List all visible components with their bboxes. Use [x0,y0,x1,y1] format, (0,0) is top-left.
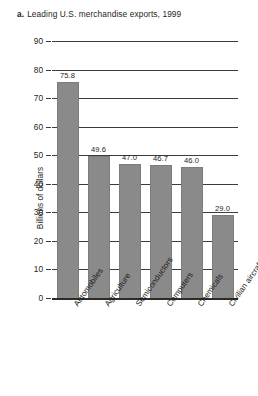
y-axis-tick-label: 40 [34,179,43,189]
bar-value-label: 75.8 [60,71,75,80]
bar[interactable] [150,165,172,298]
y-axis-tick-label: 30 [34,207,43,217]
y-axis-tick [46,70,51,71]
x-axis-line [52,298,238,300]
bar-value-label: 47.0 [122,153,137,162]
y-axis-tick-label: 70 [34,93,43,103]
bar-series: 75.849.647.046.746.029.0 [52,41,238,298]
y-axis-tick-label: 10 [34,264,43,274]
bar-value-label: 49.6 [91,145,106,154]
y-axis-tick [46,212,51,213]
y-axis-tick [46,298,51,299]
y-axis-title: Billions of dollars [35,167,45,229]
bar[interactable] [88,156,110,298]
y-axis-tick [46,41,51,42]
bar[interactable] [212,215,234,298]
bar-value-label: 46.0 [184,156,199,165]
bar-chart: Billions of dollars 0102030405060708090 … [0,0,258,396]
y-axis-tick [46,184,51,185]
bar[interactable] [119,164,141,298]
y-axis-tick [46,241,51,242]
y-axis-tick-label: 90 [34,36,43,46]
y-axis-tick [46,269,51,270]
y-axis-tick [46,155,51,156]
plot-area: 0102030405060708090 75.849.647.046.746.0… [52,41,238,298]
bar-value-label: 46.7 [153,154,168,163]
y-axis-tick-label: 60 [34,122,43,132]
y-axis-tick [46,98,51,99]
y-axis-tick-label: 50 [34,150,43,160]
bar[interactable] [57,82,79,298]
bar[interactable] [181,167,203,298]
y-axis-tick-label: 80 [34,65,43,75]
y-axis-tick-label: 20 [34,236,43,246]
y-axis-tick [46,127,51,128]
bar-value-label: 29.0 [215,204,230,213]
y-axis-tick-label: 0 [38,293,43,303]
